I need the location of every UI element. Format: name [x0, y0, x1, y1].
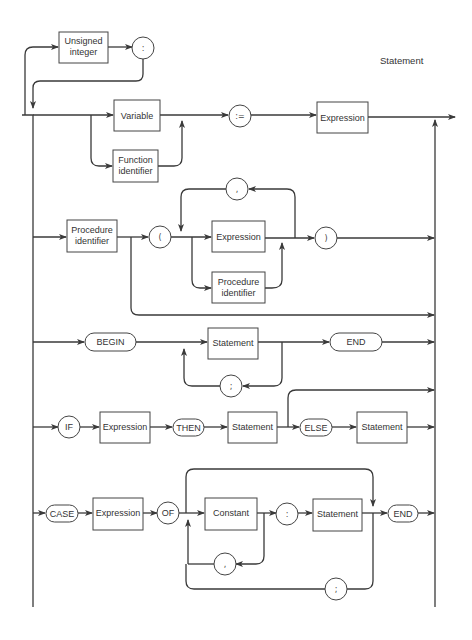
statement-syntax-diagram: Statement Unsigned integer : Variable Fu… [0, 0, 472, 640]
assign-operator-circle: := [229, 105, 251, 127]
unsigned-integer-box: Unsigned integer [59, 32, 108, 63]
svg-text:Statement: Statement [317, 509, 359, 519]
svg-text:identifier: identifier [221, 288, 255, 298]
left-rail [22, 115, 33, 607]
svg-text:integer: integer [70, 47, 98, 57]
begin-keyword: BEGIN [85, 333, 136, 351]
svg-text:Expression: Expression [320, 113, 365, 123]
svg-text:identifier: identifier [75, 236, 109, 246]
svg-text:END: END [346, 337, 366, 347]
if-expression-box: Expression [100, 412, 150, 443]
svg-text:,: , [236, 185, 239, 194]
svg-text:identifier: identifier [118, 166, 152, 176]
svg-text:;: ; [230, 382, 233, 391]
comma-circle: , [226, 178, 248, 200]
constant-box: Constant [205, 498, 257, 530]
svg-text:OF: OF [162, 508, 175, 518]
svg-text:;: ; [335, 585, 338, 594]
then-keyword: THEN [173, 419, 204, 436]
case-comma-circle: , [214, 553, 236, 575]
svg-text:Expression: Expression [103, 422, 148, 432]
svg-text:Expression: Expression [96, 508, 141, 518]
svg-text:): ) [324, 234, 327, 243]
semicolon-circle: ; [220, 375, 242, 397]
case-keyword: CASE [46, 505, 78, 522]
close-paren-circle: ) [315, 227, 337, 249]
open-paren-circle: ( [149, 226, 171, 248]
variable-box: Variable [114, 100, 160, 131]
svg-text:BEGIN: BEGIN [96, 337, 124, 347]
procedure-identifier-box: Procedure identifier [67, 220, 117, 252]
compound-statement-box: Statement [208, 328, 258, 359]
case-statement-box: Statement [313, 499, 362, 531]
svg-text:Procedure: Procedure [71, 225, 113, 235]
svg-text:ELSE: ELSE [304, 423, 327, 433]
case-expression-box: Expression [93, 498, 143, 530]
svg-text:Constant: Constant [213, 508, 250, 518]
svg-text:END: END [393, 509, 413, 519]
svg-text::: : [286, 510, 289, 519]
diagram-title: Statement [380, 55, 424, 66]
else-statement-box: Statement [357, 412, 407, 443]
svg-text:IF: IF [65, 422, 74, 432]
svg-text:Procedure: Procedure [218, 277, 260, 287]
svg-text:,: , [224, 560, 227, 569]
svg-text:(: ( [158, 233, 161, 242]
case-colon-circle: : [276, 503, 298, 525]
label-colon-circle: : [132, 37, 154, 59]
svg-text::: : [142, 44, 145, 53]
svg-text:CASE: CASE [50, 509, 75, 519]
case-semicolon-circle: ; [325, 578, 347, 600]
svg-text::=: := [235, 112, 244, 121]
svg-text:Expression: Expression [216, 232, 261, 242]
case-end-keyword: END [388, 505, 418, 522]
function-identifier-box: Function identifier [113, 150, 158, 182]
param-expression-box: Expression [212, 221, 265, 252]
expression-box: Expression [317, 102, 368, 133]
then-statement-box: Statement [228, 412, 277, 443]
svg-text:Statement: Statement [212, 338, 254, 348]
svg-text:Statement: Statement [232, 422, 274, 432]
else-keyword: ELSE [300, 419, 332, 436]
param-procedure-identifier-box: Procedure identifier [212, 272, 265, 303]
of-keyword: OF [157, 502, 179, 524]
svg-text:Variable: Variable [121, 111, 153, 121]
end-keyword: END [330, 333, 382, 351]
svg-text:THEN: THEN [176, 423, 201, 433]
svg-text:Function: Function [118, 155, 153, 165]
svg-text:Unsigned: Unsigned [64, 36, 102, 46]
if-keyword: IF [58, 416, 80, 438]
svg-text:Statement: Statement [361, 422, 403, 432]
